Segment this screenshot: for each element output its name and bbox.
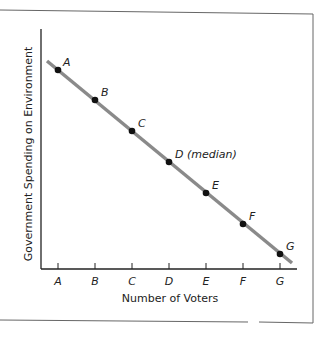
point-a: [55, 67, 62, 74]
point-label-d-median: D (median): [175, 148, 237, 161]
point-label-a: A: [62, 56, 71, 69]
x-axis-label: Number of Voters: [122, 292, 219, 305]
point-b: [92, 97, 99, 104]
point-d: [166, 159, 173, 166]
frame-top: [0, 10, 313, 14]
point-f: [240, 221, 247, 228]
y-axis-label: Government Spending on Environment: [22, 46, 35, 261]
point-label-g: G: [286, 240, 295, 253]
point-label-c: C: [138, 117, 146, 130]
point-c: [129, 128, 136, 135]
point-label-e: E: [212, 179, 219, 192]
tick-label-f: F: [240, 275, 247, 288]
x-tick-labels: A B C D E F G: [53, 275, 284, 288]
point-labels: A B C D (median) E F G: [62, 56, 295, 253]
chart-figure: A B C D E F G Number of Voters Governmen…: [0, 0, 328, 340]
tick-label-a: A: [53, 275, 62, 288]
frame-bottom-left: [0, 320, 248, 322]
point-label-b: B: [101, 86, 109, 99]
point-g: [277, 251, 284, 258]
tick-label-e: E: [203, 275, 210, 288]
point-label-f: F: [249, 210, 256, 223]
point-e: [203, 190, 210, 197]
frame-bottom-right: [259, 322, 313, 323]
tick-label-g: G: [276, 275, 285, 288]
x-ticks: [58, 263, 280, 269]
tick-label-b: B: [91, 275, 99, 288]
tick-label-c: C: [128, 275, 136, 288]
tick-label-d: D: [165, 275, 173, 288]
